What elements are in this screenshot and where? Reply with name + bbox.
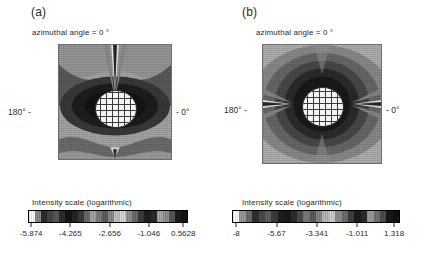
panel-a-colorbar xyxy=(28,210,188,223)
colorbar-tick xyxy=(70,223,71,227)
colorbar-tick xyxy=(394,223,395,227)
panel-a-angle-label-180: 180° - xyxy=(8,107,31,117)
panel-b-colorbar-ticks xyxy=(232,223,400,228)
colorbar-tick-label: 1.318 xyxy=(384,229,404,238)
panel-b-particle xyxy=(302,87,344,127)
colorbar-tick-label: -1.046 xyxy=(137,229,160,238)
colorbar-tick-label: -4.265 xyxy=(59,229,82,238)
colorbar-tick-label: 0.5628 xyxy=(171,229,195,238)
panel-a-colorbar-labels: -5.874-4.265-2.656-1.0460.5628 xyxy=(28,229,188,241)
panel-a-angle-label-0: - 0° xyxy=(176,107,189,117)
colorbar-tick-label: -3.341 xyxy=(305,229,328,238)
panel-b-particle-mesh xyxy=(302,87,344,127)
panel-b-angle-label-0: - 0° xyxy=(386,105,399,115)
panel-a-colorbar-block: Intensity scale (logarithmic) -5.874-4.2… xyxy=(28,198,188,241)
colorbar-tick-label: -8 xyxy=(233,229,240,238)
colorbar-tick xyxy=(109,223,110,227)
panel-b: (b) azimuthal angle = 0 ° xyxy=(214,0,428,259)
panel-b-letter: (b) xyxy=(242,5,257,19)
colorbar-tick-label: -5.67 xyxy=(267,229,285,238)
panel-a-particle-mesh xyxy=(95,90,137,128)
figure-container: (a) azimuthal angle = 0 ° xyxy=(0,0,428,259)
panel-b-colorbar xyxy=(232,210,400,223)
colorbar-tick xyxy=(316,223,317,227)
colorbar-tick xyxy=(357,223,358,227)
colorbar-tick xyxy=(183,223,184,227)
panel-b-intensity-map xyxy=(262,44,382,164)
colorbar-tick-label: -2.656 xyxy=(98,229,121,238)
panel-a-particle xyxy=(95,90,137,128)
colorbar-tick-label: -1.011 xyxy=(346,229,368,238)
panel-a-azimuth-title: azimuthal angle = 0 ° xyxy=(32,28,109,37)
colorbar-tick xyxy=(236,223,237,227)
panel-b-angle-label-180: 180° - xyxy=(224,105,247,115)
colorbar-tick-label: -5.874 xyxy=(20,229,43,238)
panel-a: (a) azimuthal angle = 0 ° xyxy=(0,0,214,259)
panel-b-colorbar-caption: Intensity scale (logarithmic) xyxy=(242,198,400,207)
panel-b-azimuth-title: azimuthal angle = 0 ° xyxy=(256,28,333,37)
colorbar-tick xyxy=(148,223,149,227)
panel-b-colorbar-block: Intensity scale (logarithmic) -8-5.67-3.… xyxy=(232,198,400,241)
colorbar-segment xyxy=(393,211,399,222)
panel-a-intensity-map xyxy=(58,44,172,160)
panel-a-colorbar-ticks xyxy=(28,223,188,228)
panel-a-letter: (a) xyxy=(31,5,46,19)
panel-b-colorbar-labels: -8-5.67-3.341-1.0111.318 xyxy=(232,229,400,241)
colorbar-segment xyxy=(181,211,187,222)
colorbar-tick xyxy=(276,223,277,227)
colorbar-tick xyxy=(31,223,32,227)
panel-a-colorbar-caption: Intensity scale (logarithmic) xyxy=(32,198,188,207)
